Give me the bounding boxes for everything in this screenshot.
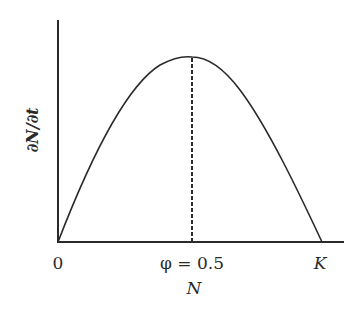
tick-label-zero: 0 — [53, 253, 64, 273]
tick-label-phi: φ = 0.5 — [160, 253, 224, 273]
growth-curve — [58, 0, 322, 242]
chart: ∂N/∂t 0 φ = 0.5 K N — [0, 0, 358, 315]
x-axis-label: N — [186, 278, 203, 298]
tick-label-k: K — [313, 253, 328, 273]
y-axis-label: ∂N/∂t — [23, 107, 42, 153]
growth-curve-line — [58, 57, 322, 242]
